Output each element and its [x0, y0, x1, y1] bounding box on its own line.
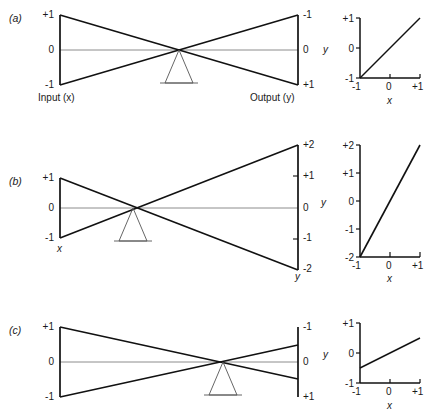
panel-c-plot-xtick-left: -1	[352, 387, 361, 397]
panel-b-plot-xtick-right: +1	[412, 261, 423, 271]
panel-c-plot-xlabel: x	[387, 400, 392, 411]
panel-c: (c) +1 0 -1 -1 0 +1 +1 0 -1 y -1 0 +1 x	[0, 305, 434, 417]
panel-a-plot-xlabel: x	[387, 95, 392, 106]
panel-a: (a) +1 0 -1 -1 0 +1 Input (x) Output (y)…	[0, 0, 434, 118]
panel-b: (b) +1 0 -1 +2 +1 0 -1 -2 x y +2 +1 0 -1…	[0, 133, 434, 283]
panel-a-plot-graphic	[0, 0, 434, 118]
panel-b-plot-graphic	[0, 133, 434, 283]
panel-c-plot-xtick-right: +1	[412, 387, 423, 397]
panel-b-plot-xtick-mid: 0	[386, 261, 392, 271]
panel-a-plot-line	[360, 18, 420, 78]
panel-c-plot-line	[360, 338, 420, 368]
panel-a-plot-xtick-left: -1	[352, 82, 361, 92]
panel-a-plot-xtick-right: +1	[412, 82, 423, 92]
panel-b-plot-xlabel: x	[387, 273, 392, 284]
panel-b-plot-line	[360, 145, 420, 257]
panel-b-plot-xtick-left: -1	[352, 261, 361, 271]
panel-c-plot-xtick-mid: 0	[386, 387, 392, 397]
panel-c-plot-graphic	[0, 305, 434, 417]
panel-a-plot-xtick-mid: 0	[386, 82, 392, 92]
